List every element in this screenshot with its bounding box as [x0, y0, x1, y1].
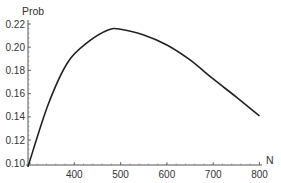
x-axis: 400500600700800 — [26, 162, 268, 180]
x-axis-label: N — [266, 154, 274, 166]
y-tick-label: 0.16 — [6, 88, 26, 99]
x-tick-label: 400 — [66, 169, 83, 180]
y-axis-label: Prob — [22, 5, 44, 17]
y-tick-label: 0.12 — [6, 135, 26, 146]
probability-curve — [28, 29, 260, 167]
x-tick-label: 800 — [251, 169, 268, 180]
y-tick-label: 0.22 — [6, 19, 26, 30]
line-chart: 0.100.120.140.160.180.200.22 40050060070… — [0, 0, 281, 183]
y-tick-label: 0.14 — [6, 111, 26, 122]
x-tick-label: 700 — [205, 169, 222, 180]
x-tick-label: 500 — [112, 169, 129, 180]
y-tick-label: 0.20 — [6, 42, 26, 53]
y-tick-label: 0.10 — [6, 158, 26, 169]
x-tick-label: 600 — [159, 169, 176, 180]
y-axis: 0.100.120.140.160.180.200.22 — [6, 19, 31, 169]
y-tick-label: 0.18 — [6, 65, 26, 76]
